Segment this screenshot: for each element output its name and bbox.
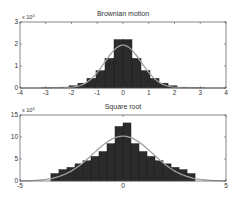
brownian-motion-panel: Brownian motion x 104 -4-3-2-1012340123 (14, 10, 228, 96)
histogram-bar (139, 152, 147, 181)
histogram-bar (91, 156, 99, 181)
histogram-bar (147, 156, 155, 181)
histogram-bar (150, 78, 159, 88)
histogram-bar (99, 152, 107, 181)
x-tick-label: 5 (224, 182, 228, 189)
histogram-bar (87, 78, 96, 88)
x-tick-label: -3 (43, 89, 49, 96)
histogram-bar (123, 123, 131, 181)
chart-title: Square root (105, 103, 142, 111)
y-multiplier: x 104 (22, 13, 35, 21)
histogram-bar (155, 161, 163, 181)
square-root-panel: Square root x 104 -505051015 (11, 103, 228, 189)
x-tick-label: 3 (198, 89, 202, 96)
y-tick-label: 0 (14, 84, 18, 91)
x-tick-label: 0 (121, 89, 125, 96)
y-multiplier: x 104 (22, 106, 35, 114)
x-tick-label: -5 (17, 182, 23, 189)
y-tick-label: 10 (11, 133, 19, 140)
y-tick-label: 3 (14, 18, 18, 25)
x-tick-label: 0 (121, 182, 125, 189)
histogram-bar (115, 126, 123, 181)
plot-area: -505051015 (11, 111, 228, 189)
chart-title: Brownian motion (97, 10, 149, 17)
x-tick-label: 4 (224, 89, 228, 96)
y-tick-label: 2 (14, 40, 18, 47)
figure: Brownian motion x 104 -4-3-2-1012340123 … (0, 0, 238, 199)
histogram-bar (132, 58, 141, 88)
histogram-bar (105, 58, 114, 88)
x-tick-label: -2 (69, 89, 75, 96)
y-tick-label: 1 (14, 62, 18, 69)
x-tick-label: -4 (17, 89, 23, 96)
x-tick-label: 1 (147, 89, 151, 96)
histogram-bar (131, 144, 139, 181)
histogram-bar (83, 161, 91, 181)
y-tick-label: 5 (14, 155, 18, 162)
x-tick-label: 2 (173, 89, 177, 96)
x-tick-label: -1 (94, 89, 100, 96)
y-tick-label: 15 (11, 111, 19, 118)
y-tick-label: 0 (14, 177, 18, 184)
histogram-bar (107, 144, 115, 181)
plot-area: -4-3-2-1012340123 (14, 18, 228, 96)
